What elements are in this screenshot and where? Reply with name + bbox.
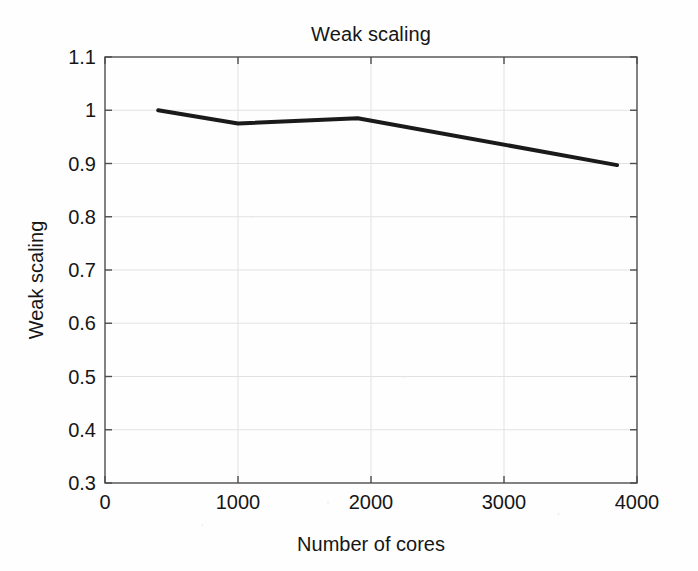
data-series-group <box>158 110 617 165</box>
data-line-weak-scaling <box>158 110 617 165</box>
plot-canvas <box>0 0 698 571</box>
chart-figure: Weak scaling Weak scaling Number of core… <box>0 0 698 571</box>
